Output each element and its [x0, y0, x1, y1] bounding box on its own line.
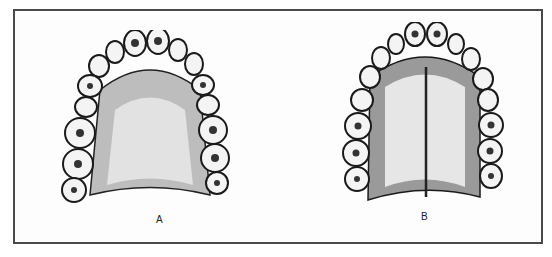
dental-arch-b-illustration — [340, 22, 510, 202]
dental-arch-a-illustration — [55, 30, 245, 205]
panel-label-a: A — [156, 214, 163, 225]
dental-arch-a — [55, 30, 245, 205]
dental-arch-b — [340, 22, 510, 202]
panel-label-b: B — [421, 211, 428, 222]
